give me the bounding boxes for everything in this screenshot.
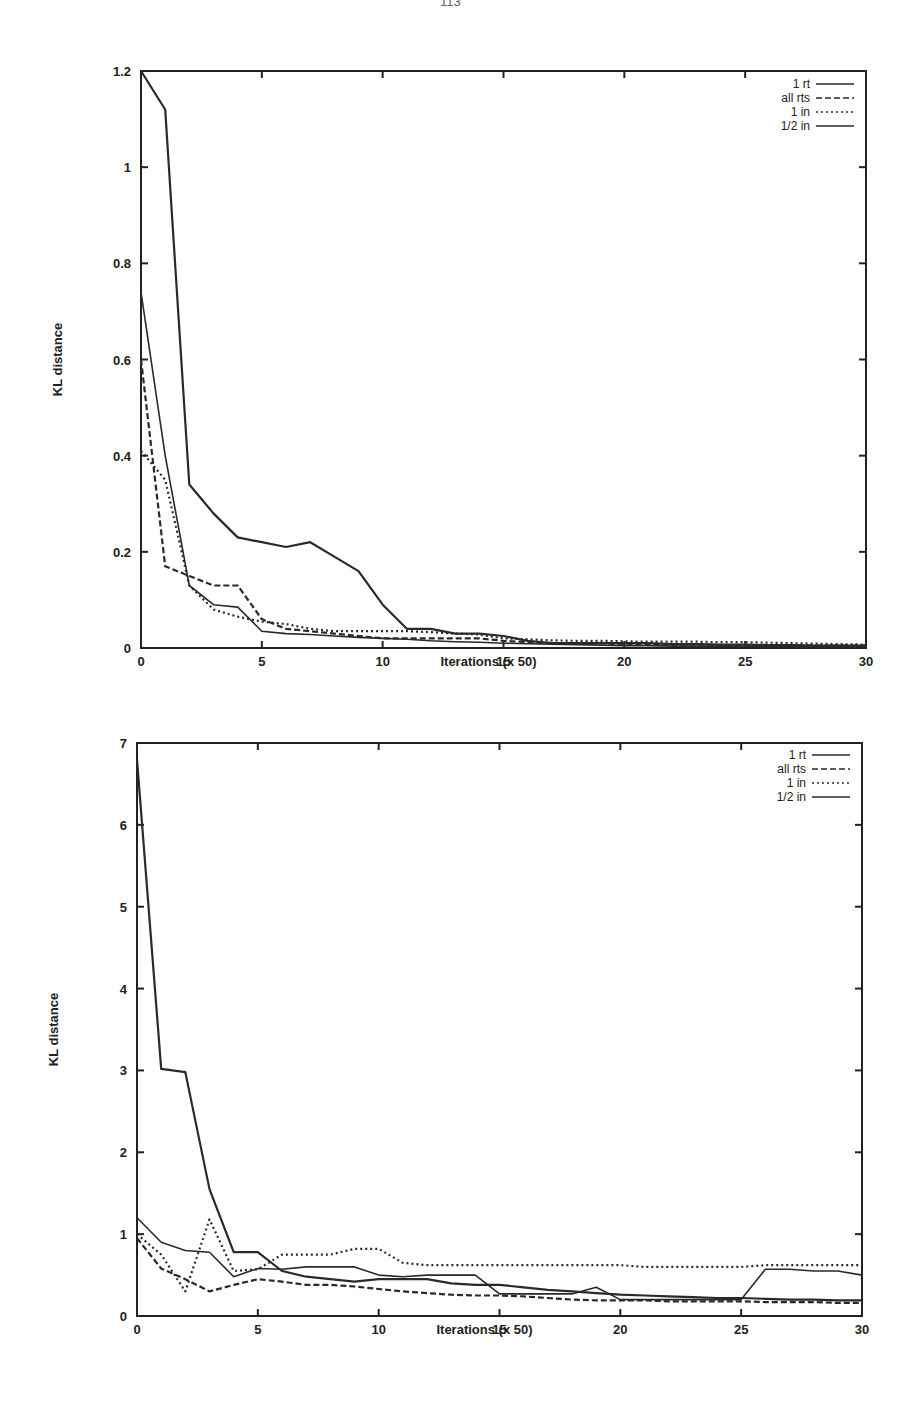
x-tick-label: 20 — [613, 1322, 627, 1337]
x-tick-label: 30 — [855, 1322, 869, 1337]
series-line-1-in — [141, 451, 866, 645]
y-tick-label: 0.8 — [113, 256, 131, 271]
legend-label: 1 in — [791, 105, 810, 119]
x-tick-label: 5 — [258, 654, 265, 669]
y-tick-label: 6 — [120, 818, 127, 833]
series-line-1-in — [137, 1219, 862, 1291]
y-tick-label: 0.2 — [113, 545, 131, 560]
series-line-1-rt — [137, 759, 862, 1300]
chart-1: 00.20.40.60.811.2051015202530Iterations … — [50, 64, 873, 669]
legend-label: all rts — [777, 762, 806, 776]
y-tick-label: 5 — [120, 900, 127, 915]
x-tick-label: 25 — [734, 1322, 748, 1337]
y-tick-label: 0 — [120, 1309, 127, 1324]
x-tick-label: 30 — [859, 654, 873, 669]
x-tick-label: 10 — [371, 1322, 385, 1337]
x-axis-label: Iterations (x 50) — [440, 654, 536, 669]
y-tick-label: 0.6 — [113, 353, 131, 368]
y-axis-label: KL distance — [50, 323, 65, 396]
y-tick-label: 2 — [120, 1145, 127, 1160]
y-tick-label: 1.2 — [113, 64, 131, 79]
y-tick-label: 3 — [120, 1063, 127, 1078]
x-tick-label: 10 — [375, 654, 389, 669]
plot-frame — [141, 71, 866, 648]
legend-label: 1 rt — [789, 748, 807, 762]
plot-frame — [137, 743, 862, 1316]
legend-label: 1/2 in — [777, 790, 806, 804]
series-line-1-2-in — [137, 1218, 862, 1300]
legend-label: 1 rt — [793, 77, 811, 91]
legend-label: all rts — [781, 91, 810, 105]
y-tick-label: 4 — [120, 982, 128, 997]
y-tick-label: 1 — [120, 1227, 127, 1242]
legend-label: 1 in — [787, 776, 806, 790]
x-tick-label: 5 — [254, 1322, 261, 1337]
x-tick-label: 0 — [137, 654, 144, 669]
series-line-1-rt — [141, 71, 866, 646]
y-tick-label: 7 — [120, 736, 127, 751]
y-tick-label: 1 — [124, 160, 131, 175]
chart-2: 01234567051015202530Iterations (x 50)KL … — [46, 736, 869, 1337]
legend-label: 1/2 in — [781, 119, 810, 133]
series-line-1-2-in — [141, 292, 866, 646]
y-axis-label: KL distance — [46, 993, 61, 1066]
charts-canvas: 00.20.40.60.811.2051015202530Iterations … — [0, 0, 911, 1408]
y-tick-label: 0.4 — [113, 449, 132, 464]
series-line-all-rts — [141, 360, 866, 646]
y-tick-label: 0 — [124, 641, 131, 656]
x-tick-label: 0 — [133, 1322, 140, 1337]
x-tick-label: 20 — [617, 654, 631, 669]
x-tick-label: 25 — [738, 654, 752, 669]
x-axis-label: Iterations (x 50) — [436, 1322, 532, 1337]
